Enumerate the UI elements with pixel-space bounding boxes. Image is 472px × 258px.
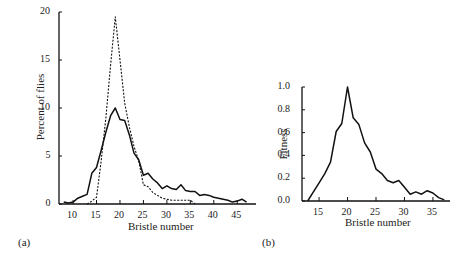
x-tick-label: 20 bbox=[114, 209, 124, 220]
series-fitness bbox=[308, 87, 445, 201]
y-tick-label: 5 bbox=[46, 149, 51, 160]
panel-a-xlabel: Bristle number bbox=[128, 220, 194, 232]
x-tick-label: 40 bbox=[208, 209, 218, 220]
x-tick-label: 45 bbox=[231, 209, 241, 220]
y-tick-label: 0.4 bbox=[278, 148, 291, 159]
y-tick-label: 0.8 bbox=[278, 103, 291, 114]
x-tick-label: 15 bbox=[313, 206, 323, 217]
x-tick-label: 30 bbox=[398, 206, 408, 217]
panel-a-label: (a) bbox=[18, 236, 30, 248]
series-dashed bbox=[87, 17, 195, 204]
y-tick-label: 0.0 bbox=[278, 194, 291, 205]
y-tick-label: 0.2 bbox=[278, 171, 291, 182]
x-tick-label: 35 bbox=[184, 209, 194, 220]
y-tick-label: 10 bbox=[40, 101, 50, 112]
panel-b-xlabel: Bristle number bbox=[345, 216, 411, 228]
x-tick-label: 20 bbox=[342, 206, 352, 217]
x-tick-label: 25 bbox=[137, 209, 147, 220]
series-solid bbox=[64, 108, 247, 203]
y-tick-label: 0 bbox=[46, 197, 51, 208]
x-tick-label: 10 bbox=[67, 209, 77, 220]
y-tick-label: 20 bbox=[40, 5, 50, 16]
y-tick-label: 15 bbox=[40, 53, 50, 64]
x-tick-label: 35 bbox=[427, 206, 437, 217]
x-tick-label: 15 bbox=[91, 209, 101, 220]
panel-b-label: (b) bbox=[262, 236, 275, 248]
y-tick-label: 1.0 bbox=[278, 80, 291, 91]
x-tick-label: 30 bbox=[161, 209, 171, 220]
y-tick-label: 0.6 bbox=[278, 126, 291, 137]
x-tick-label: 25 bbox=[370, 206, 380, 217]
